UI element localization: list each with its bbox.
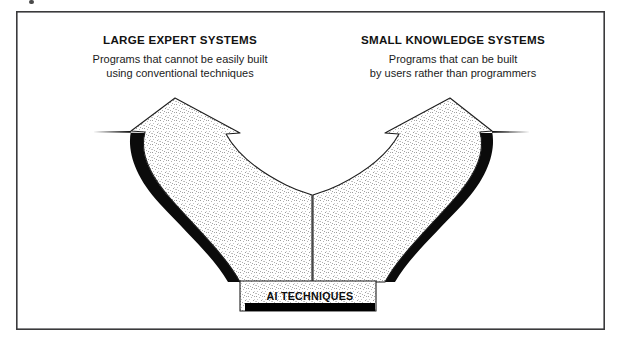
branch-left-subtitle-line-1: Programs that cannot be easily built: [93, 53, 268, 65]
branch-left-subtitle-line-2: using conventional techniques: [106, 67, 254, 79]
branch-right-title: SMALL KNOWLEDGE SYSTEMS: [361, 33, 545, 46]
scan-artifact-speck: [29, 0, 34, 4]
branch-left-arrow: [93, 98, 312, 282]
branch-right-subtitle-line-1: Programs that can be built: [389, 53, 517, 65]
branch-right-arrow: [313, 98, 530, 282]
forking-arrow-diagram: LARGE EXPERT SYSTEMS Programs that canno…: [0, 0, 619, 349]
trunk-underline-bar: [245, 303, 375, 311]
branch-right-subtitle-line-2: by users rather than programmers: [370, 67, 537, 79]
trunk-label: AI TECHNIQUES: [267, 290, 354, 302]
branch-left-title: LARGE EXPERT SYSTEMS: [103, 33, 257, 46]
